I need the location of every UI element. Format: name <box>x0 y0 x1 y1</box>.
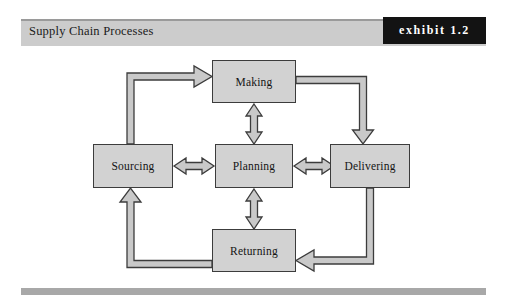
node-making-label: Making <box>236 76 273 88</box>
node-planning[interactable]: Planning <box>215 144 293 188</box>
exhibit-tag: exhibit 1.2 <box>383 17 486 44</box>
arrow-sourcing-to-making <box>127 66 212 144</box>
arrow-making-to-delivering <box>296 77 374 145</box>
node-sourcing[interactable]: Sourcing <box>93 144 173 188</box>
page-title: Supply Chain Processes <box>29 24 154 39</box>
node-returning-label: Returning <box>230 245 278 257</box>
node-delivering-label: Delivering <box>344 160 395 172</box>
arrow-planning-returning <box>246 189 262 229</box>
exhibit-tag-label: exhibit 1.2 <box>383 17 486 44</box>
node-planning-label: Planning <box>233 160 276 172</box>
exhibit-figure: Supply Chain Processes exhibit 1.2 <box>0 0 507 306</box>
arrow-delivering-to-returning <box>296 188 374 271</box>
arrow-sourcing-planning <box>174 158 214 174</box>
supply-chain-diagram: Making Sourcing Planning Delivering Retu… <box>0 48 507 286</box>
arrow-planning-making <box>246 104 262 144</box>
footer-rule <box>21 288 486 295</box>
arrow-planning-delivering <box>294 158 334 174</box>
node-making[interactable]: Making <box>212 60 296 103</box>
node-sourcing-label: Sourcing <box>111 160 154 172</box>
node-returning[interactable]: Returning <box>212 229 296 272</box>
arrow-returning-to-sourcing <box>120 188 212 268</box>
node-delivering[interactable]: Delivering <box>330 144 410 188</box>
